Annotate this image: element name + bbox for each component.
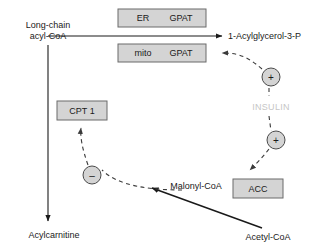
plus-sign-glyph-acc: + bbox=[273, 135, 279, 146]
regulation-node-malonyl-inhibits-cpt1[interactable]: – bbox=[83, 166, 101, 184]
label-malonyl-coa: Malonyl-CoA bbox=[170, 181, 222, 191]
regulation-node-insulin-activates-acc[interactable]: + bbox=[267, 131, 285, 149]
minus-sign-glyph-cpt1: – bbox=[89, 170, 95, 181]
label-acylglycerol-3-p: 1-Acylglycerol-3-P bbox=[228, 31, 301, 41]
mito-gpat-enzyme-label: GPAT bbox=[169, 48, 193, 58]
er-gpat-compartment-label: ER bbox=[137, 13, 150, 23]
label-insulin: INSULIN bbox=[252, 102, 290, 112]
label-long-chain-acylcoa-line2: acyl-CoA bbox=[30, 31, 67, 41]
arrow-minus-node-to-cpt1 bbox=[81, 128, 88, 165]
enzyme-box-cpt1[interactable]: CPT 1 bbox=[57, 101, 107, 120]
enzyme-box-er-gpat[interactable]: ER GPAT bbox=[118, 9, 206, 27]
label-acetyl-coa: Acetyl-CoA bbox=[245, 232, 290, 242]
er-gpat-enzyme-label: GPAT bbox=[169, 13, 193, 23]
mito-gpat-compartment-label: mito bbox=[134, 48, 151, 58]
mito-gpat-box-shape bbox=[118, 44, 206, 62]
arrow-insulin-to-mito-gpat bbox=[222, 53, 262, 69]
pathway-canvas: ER GPAT mito GPAT CPT 1 ACC + + bbox=[0, 0, 318, 252]
plus-sign-glyph-gpat: + bbox=[268, 72, 274, 83]
pathway-diagram: ER GPAT mito GPAT CPT 1 ACC + + bbox=[0, 0, 318, 252]
enzyme-box-mito-gpat[interactable]: mito GPAT bbox=[118, 44, 206, 62]
er-gpat-box-shape bbox=[118, 9, 206, 27]
arrow-insulin-to-acc bbox=[250, 149, 269, 170]
regulation-node-insulin-activates-gpat[interactable]: + bbox=[262, 68, 280, 86]
enzyme-box-acc[interactable]: ACC bbox=[233, 179, 283, 198]
cpt1-enzyme-label: CPT 1 bbox=[69, 106, 94, 116]
label-acylcarnitine: Acylcarnitine bbox=[28, 230, 79, 240]
acc-enzyme-label: ACC bbox=[248, 184, 268, 194]
label-long-chain-acylcoa-line1: Long-chain bbox=[26, 20, 71, 30]
